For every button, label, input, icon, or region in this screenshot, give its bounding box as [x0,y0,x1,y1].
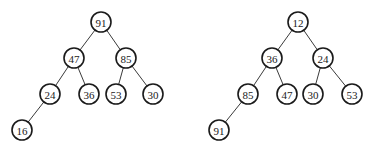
tree-edge [119,68,124,85]
tree-edge [329,66,345,86]
max-heap-edges [28,30,147,122]
tree-edge [304,30,318,50]
tree-edge [28,102,44,122]
tree-edge [278,30,292,50]
node-label: 16 [17,125,29,137]
max-heap-nodes: 9147852436533016 [12,12,163,140]
node-label: 12 [293,17,304,29]
node-label: 47 [69,53,81,65]
min-heap-nodes: 1236248547305391 [209,12,362,140]
heap-diagram-canvas: 9147852436533016 1236248547305391 [0,0,370,152]
node-label: 53 [347,89,359,101]
tree-edge [316,68,321,85]
tree-edge [254,66,267,85]
tree-node: 53 [342,84,362,104]
node-label: 53 [111,89,123,101]
tree-node: 91 [209,120,229,140]
node-label: 36 [84,89,96,101]
node-label: 91 [96,17,107,29]
tree-edge [56,66,69,85]
tree-node: 12 [288,12,308,32]
min-heap-tree: 1236248547305391 [209,12,362,140]
node-label: 47 [282,89,294,101]
tree-node: 91 [91,12,111,32]
node-label: 91 [214,125,225,137]
tree-edge [132,66,147,86]
max-heap-tree: 9147852436533016 [12,12,163,140]
tree-node: 24 [313,48,333,68]
tree-edge [225,102,241,122]
node-label: 85 [121,53,133,65]
node-label: 36 [267,53,279,65]
tree-edge [80,30,95,50]
tree-node: 47 [64,48,84,68]
tree-node: 85 [116,48,136,68]
node-label: 24 [45,89,57,101]
node-label: 30 [308,89,320,101]
tree-node: 30 [143,84,163,104]
tree-edge [276,67,283,85]
tree-node: 36 [79,84,99,104]
tree-node: 85 [238,84,258,104]
node-label: 85 [243,89,255,101]
tree-edge [107,30,121,50]
node-label: 30 [148,89,160,101]
tree-node: 47 [277,84,297,104]
tree-node: 30 [303,84,323,104]
node-label: 24 [318,53,330,65]
min-heap-edges [225,30,345,122]
tree-node: 36 [262,48,282,68]
tree-node: 24 [40,84,60,104]
tree-node: 16 [12,120,32,140]
tree-node: 53 [106,84,126,104]
tree-edge [78,67,85,85]
